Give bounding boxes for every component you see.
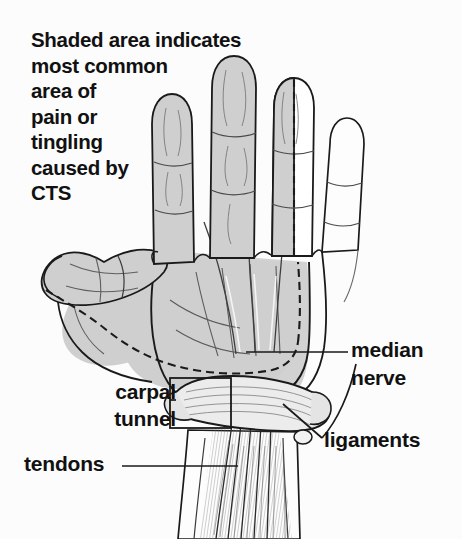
ring-finger: [272, 78, 314, 256]
caption-line-7: CTS: [31, 180, 246, 206]
label-tendons: tendons: [24, 452, 104, 476]
figure-canvas: Shaded area indicates most common area o…: [0, 0, 462, 539]
caption-line-5: tingling: [31, 129, 246, 155]
label-median-nerve-line2: nerve: [351, 364, 423, 392]
caption-line-4: pain or: [31, 104, 246, 130]
label-median-nerve: median nerve: [351, 336, 423, 392]
label-ligaments: ligaments: [324, 428, 420, 452]
caption-line-6: caused by: [31, 155, 246, 181]
label-carpal-tunnel-line2: tunnel: [66, 405, 176, 432]
label-carpal-tunnel: carpal tunnel: [66, 378, 176, 432]
caption-line-1: Shaded area indicates: [31, 27, 246, 53]
caption-line-3: area of: [31, 78, 246, 104]
caption-line-2: most common: [31, 53, 246, 79]
label-median-nerve-line1: median: [351, 336, 423, 364]
label-carpal-tunnel-line1: carpal: [66, 378, 176, 405]
caption-block: Shaded area indicates most common area o…: [31, 27, 246, 206]
